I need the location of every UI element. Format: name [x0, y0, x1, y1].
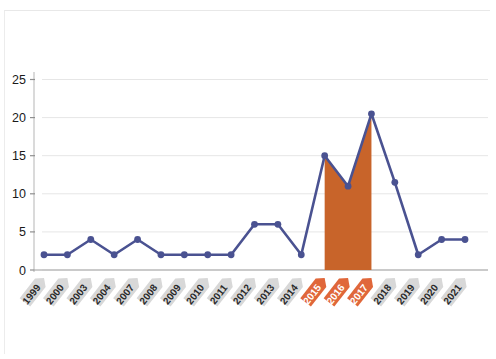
data-point: [204, 251, 211, 258]
data-point: [158, 251, 165, 258]
data-point: [41, 251, 48, 258]
x-tick-label-2013: 2013: [253, 274, 283, 307]
data-point: [345, 183, 352, 190]
x-tick-labels: 1999200020032004200720082009201020112012…: [19, 274, 470, 307]
line-chart: 0510152025 19992000200320042007200820092…: [0, 0, 496, 359]
data-point: [438, 236, 445, 243]
x-tick-label-2018: 2018: [370, 274, 400, 307]
y-tick-label: 20: [12, 111, 26, 125]
x-tick-label-1999: 1999: [19, 274, 49, 307]
y-tick-label: 10: [12, 187, 26, 201]
y-tick-label: 15: [12, 149, 26, 163]
x-tick-label-2004: 2004: [89, 274, 119, 307]
x-tick-label-2012: 2012: [230, 274, 260, 307]
x-tick-label-2000: 2000: [43, 274, 73, 307]
x-tick-label-2019: 2019: [393, 274, 423, 307]
x-tick-label-2014: 2014: [276, 274, 306, 307]
x-tick-label-2017: 2017: [347, 274, 377, 307]
data-point: [111, 251, 118, 258]
x-tick-label-2021: 2021: [440, 274, 470, 307]
data-point: [391, 179, 398, 186]
data-point: [181, 251, 188, 258]
x-tick-label-2010: 2010: [183, 274, 213, 307]
data-point: [462, 236, 469, 243]
series-line: [44, 114, 465, 255]
x-tick-label-2011: 2011: [206, 274, 236, 307]
chart-page: 0510152025 19992000200320042007200820092…: [0, 0, 496, 359]
data-point: [134, 236, 141, 243]
x-tick-label-2016: 2016: [323, 274, 353, 307]
y-tick-label: 0: [19, 264, 26, 278]
y-tick-label: 5: [19, 225, 26, 239]
x-tick-label-2009: 2009: [160, 274, 190, 307]
x-tick-label-2015: 2015: [300, 274, 330, 307]
data-point: [321, 152, 328, 159]
data-line: [44, 114, 465, 255]
data-point: [87, 236, 94, 243]
data-markers: [41, 110, 469, 258]
y-axis: 0510152025: [12, 72, 35, 278]
data-point: [298, 251, 305, 258]
x-tick-label-2007: 2007: [113, 274, 143, 307]
gridlines: [42, 80, 488, 271]
data-point: [368, 110, 375, 117]
data-point: [64, 251, 71, 258]
y-tick-label: 25: [12, 73, 26, 87]
data-point: [228, 251, 235, 258]
x-tick-label-2003: 2003: [66, 274, 96, 307]
x-tick-label-2020: 2020: [417, 274, 447, 307]
data-point: [251, 221, 258, 228]
data-point: [415, 251, 422, 258]
x-tick-label-2008: 2008: [136, 274, 166, 307]
data-point: [274, 221, 281, 228]
